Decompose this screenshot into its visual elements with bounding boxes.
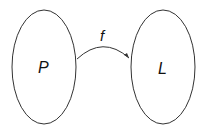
set-p-label: P: [38, 59, 49, 76]
arrowhead-icon: [124, 53, 129, 58]
mapping-label: f: [100, 27, 106, 44]
set-l-label: L: [158, 60, 167, 77]
mapping-arrow: [77, 47, 129, 59]
diagram-canvas: f P L: [0, 0, 208, 132]
